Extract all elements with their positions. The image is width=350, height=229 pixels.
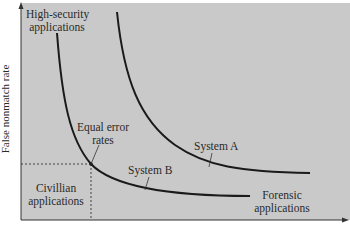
high-security-label-line2: applications bbox=[26, 21, 88, 34]
equal-error-label: Equal error rates bbox=[75, 121, 131, 147]
system-b-label: System B bbox=[128, 164, 168, 177]
civilian-label-line2: applications bbox=[26, 195, 86, 208]
civilian-label-line1: Civillian bbox=[26, 182, 86, 195]
tradeoff-diagram: False nonmatch rate High-security applic… bbox=[0, 0, 350, 229]
high-security-label-line1: High-security bbox=[26, 8, 88, 21]
forensic-label-line1: Forensic bbox=[252, 189, 312, 202]
forensic-label-line2: applications bbox=[252, 202, 312, 215]
high-security-label: High-security applications bbox=[26, 8, 88, 34]
civilian-applications-label: Civillian applications bbox=[26, 182, 86, 208]
equal-error-label-line1: Equal error bbox=[75, 121, 131, 134]
y-axis-label: False nonmatch rate bbox=[0, 54, 11, 164]
forensic-applications-label: Forensic applications bbox=[252, 189, 312, 215]
system-a-label: System A bbox=[194, 140, 238, 153]
equal-error-label-line2: rates bbox=[75, 134, 131, 147]
